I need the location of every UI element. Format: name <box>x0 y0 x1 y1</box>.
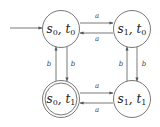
edge-label: a <box>95 106 99 114</box>
edge-label: a <box>95 12 99 20</box>
state-label: s1, t0 <box>118 22 147 37</box>
state-s1-t0[interactable]: s1, t0 <box>114 11 151 48</box>
state-s0-t0[interactable]: s0, t0 <box>43 11 80 48</box>
state-s1-t1[interactable]: s1, t1 <box>114 81 151 118</box>
state-label: s0, t0 <box>47 22 76 37</box>
edge-label: a <box>95 82 99 90</box>
state-s0-t1-accepting[interactable]: s0, t1 <box>43 81 80 118</box>
state-label: s0, t1 <box>47 92 76 107</box>
edge-label: b <box>71 60 76 68</box>
automaton-diagram: s0, t0 s1, t0 s0, t1 s1, t1 a a a a b b … <box>0 0 160 127</box>
edge-label: b <box>47 60 52 68</box>
edge-label: b <box>142 60 147 68</box>
edge-label: b <box>119 60 124 68</box>
state-label: s1, t1 <box>118 92 147 107</box>
edge-label: a <box>95 35 99 43</box>
